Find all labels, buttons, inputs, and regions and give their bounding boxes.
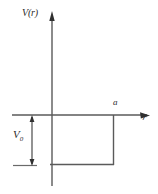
y-axis-arrowhead-icon	[49, 11, 54, 21]
figure-canvas	[0, 0, 158, 194]
well-depth-label-subscript: 0	[20, 135, 24, 143]
well-width-label: a	[113, 98, 118, 107]
y-axis-label: V(r)	[22, 8, 38, 18]
well-depth-label: V0	[13, 129, 23, 143]
well-depth-label-symbol: V	[13, 128, 20, 140]
depth-arrowhead-top-icon	[30, 115, 35, 122]
potential-well-figure: V(r) V0 a r	[0, 0, 158, 194]
